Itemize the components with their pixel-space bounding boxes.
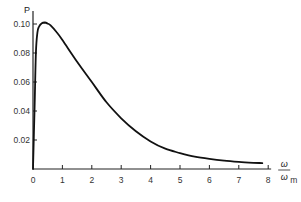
x-axis-label: ωωm	[278, 159, 297, 185]
x-tick-label: 2	[89, 175, 94, 185]
x-label-denominator: ω	[281, 172, 288, 182]
y-tick-label: 0.10	[13, 19, 30, 29]
y-tick-label: 0.04	[13, 106, 30, 116]
x-tick-label: 0	[31, 175, 36, 185]
x-tick-label: 4	[148, 175, 153, 185]
x-label-numerator: ω	[281, 159, 288, 169]
y-tick-label: 0.02	[13, 135, 30, 145]
x-label-subscript: m	[290, 175, 297, 185]
ticks: 0123456780.020.040.060.080.10	[13, 19, 270, 185]
y-tick-label: 0.06	[13, 77, 30, 87]
x-tick-label: 6	[207, 175, 212, 185]
chart: 0123456780.020.040.060.080.10 P ωωm	[0, 0, 301, 202]
x-tick-label: 7	[236, 175, 241, 185]
x-tick-label: 3	[119, 175, 124, 185]
y-axis-label: P	[24, 5, 30, 15]
x-tick-label: 8	[266, 175, 271, 185]
x-tick-label: 1	[60, 175, 65, 185]
y-tick-label: 0.08	[13, 48, 30, 58]
axes	[33, 11, 271, 169]
x-tick-label: 5	[178, 175, 183, 185]
data-line	[33, 23, 262, 170]
